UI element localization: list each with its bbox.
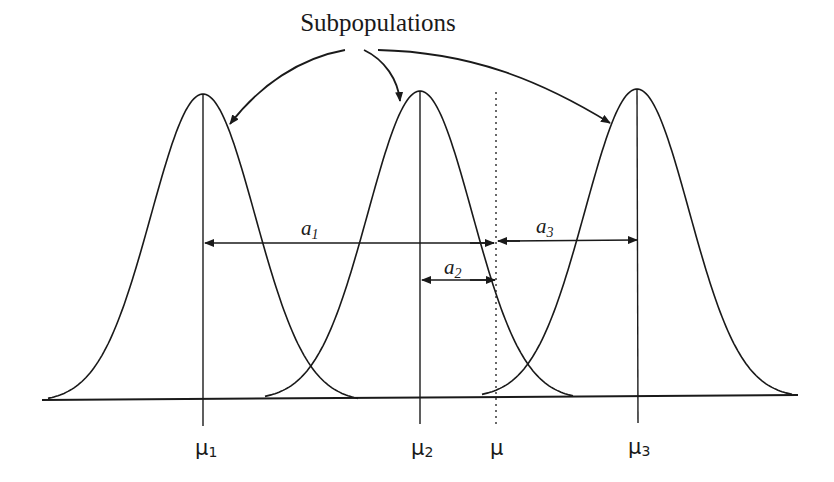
arrow-to-curve-1	[230, 50, 345, 124]
distance-arrows	[205, 240, 637, 280]
arrow-to-curve-3	[378, 50, 610, 123]
axis-label-mu2: μ2	[411, 436, 433, 460]
axis-label-mu1: μ1	[195, 436, 217, 460]
subpopulations-diagram: Subpopulations a1 a2 a3 μ1 μ2 μ μ3	[0, 0, 834, 482]
mean-line-mu3	[637, 89, 638, 423]
axis-label-mu3: μ3	[628, 435, 650, 459]
arrow-to-curve-2	[364, 50, 400, 101]
label-a1: a1	[301, 216, 319, 242]
label-a2: a2	[444, 255, 462, 281]
label-a3: a3	[536, 214, 554, 240]
axis-label-mu: μ	[490, 436, 503, 460]
diagram-title: Subpopulations	[300, 9, 456, 36]
